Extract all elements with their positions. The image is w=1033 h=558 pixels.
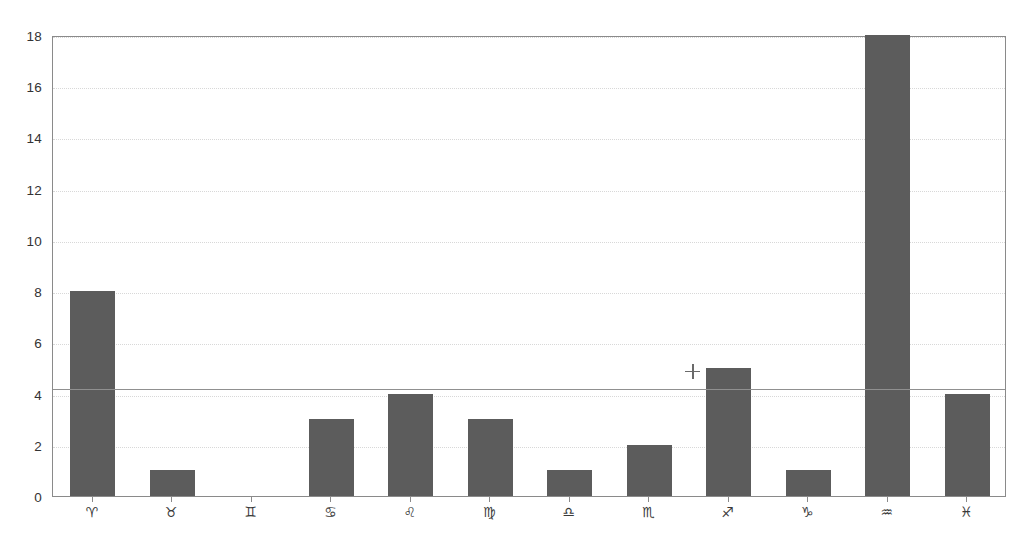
x-tick: [171, 497, 172, 502]
bar: [865, 35, 910, 496]
bar: [945, 394, 990, 496]
bar: [627, 445, 672, 496]
y-tick-label: 8: [2, 285, 42, 300]
bar: [150, 470, 195, 496]
gridline: [53, 396, 1005, 397]
bar: [468, 419, 513, 496]
x-tick: [648, 497, 649, 502]
x-tick: [251, 497, 252, 502]
x-tick: [569, 497, 570, 502]
x-tick: [489, 497, 490, 502]
bar: [70, 291, 115, 496]
gridline: [53, 447, 1005, 448]
gridline: [53, 344, 1005, 345]
plot-inner: [53, 37, 1005, 496]
x-tick: [966, 497, 967, 502]
gridline: [53, 242, 1005, 243]
x-tick: [887, 497, 888, 502]
x-tick-label-sagittarius: ♐: [708, 503, 748, 521]
reference-line: [53, 389, 1005, 390]
x-tick-label-libra: ♎: [549, 503, 589, 521]
y-tick-label: 6: [2, 336, 42, 351]
bar-chart: 024681012141618 ♈♉♊♋♌♍♎♏♐♑♒♓: [0, 0, 1033, 558]
bar: [388, 394, 433, 496]
x-tick-label-pisces: ♓: [946, 503, 986, 521]
y-tick-label: 0: [2, 490, 42, 505]
plot-area: [52, 36, 1006, 497]
x-tick-label-leo: ♌: [390, 503, 430, 521]
y-tick-label: 18: [2, 29, 42, 44]
x-tick: [330, 497, 331, 502]
bar: [547, 470, 592, 496]
y-tick-label: 2: [2, 438, 42, 453]
bar: [786, 470, 831, 496]
y-tick-label: 16: [2, 80, 42, 95]
y-tick-label: 12: [2, 182, 42, 197]
gridline: [53, 139, 1005, 140]
bar: [309, 419, 354, 496]
x-tick-label-taurus: ♉: [151, 503, 191, 521]
x-tick-label-cancer: ♋: [310, 503, 350, 521]
x-tick-label-virgo: ♍: [469, 503, 509, 521]
x-tick: [92, 497, 93, 502]
y-tick-label: 10: [2, 233, 42, 248]
gridline: [53, 293, 1005, 294]
x-tick-label-gemini: ♊: [231, 503, 271, 521]
x-tick-label-capricorn: ♑: [787, 503, 827, 521]
x-tick: [410, 497, 411, 502]
x-tick-label-aquarius: ♒: [867, 503, 907, 521]
x-tick-label-aries: ♈: [72, 503, 112, 521]
gridline: [53, 37, 1005, 38]
y-tick-label: 14: [2, 131, 42, 146]
x-tick: [807, 497, 808, 502]
y-axis-tick-labels: 024681012141618: [0, 36, 42, 497]
x-tick-label-scorpio: ♏: [628, 503, 668, 521]
gridline: [53, 88, 1005, 89]
plus-marker-icon: [685, 364, 700, 379]
bar: [706, 368, 751, 496]
x-tick: [728, 497, 729, 502]
x-axis: ♈♉♊♋♌♍♎♏♐♑♒♓: [52, 497, 1006, 542]
gridline: [53, 191, 1005, 192]
y-tick-label: 4: [2, 387, 42, 402]
